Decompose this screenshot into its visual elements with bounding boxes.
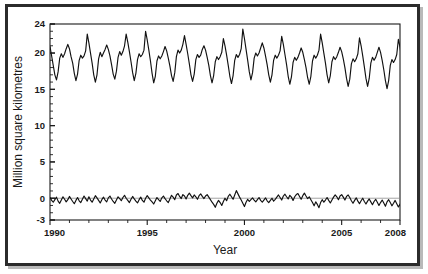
x-axis-tick-labels: 19901995200020052008 [44,227,406,238]
y-tick-label: -3 [37,214,45,225]
y-tick-label: 10 [34,120,45,131]
y-tick-label: 5 [40,156,46,167]
y-tick-label: 0 [40,193,45,204]
x-tick-label: 2005 [331,227,353,238]
x-tick-label: 2008 [385,227,406,238]
series-line-anomaly [50,191,418,211]
data-series-group [50,29,418,211]
y-tick-label: 15 [34,84,45,95]
figure-container: -30510152024 19901995200020052008 Year M… [0,0,428,274]
x-tick-label: 1995 [137,227,159,238]
y-axis-title: Million square kilometres [11,56,25,188]
plot-frame [50,24,400,220]
x-tick-label: 2000 [234,227,255,238]
x-axis-title: Year [213,243,237,257]
x-tick-label: 1990 [44,227,65,238]
series-line-extent [50,29,402,89]
x-axis-ticks [50,220,400,225]
line-chart: -30510152024 19901995200020052008 Year M… [0,0,428,274]
chart-canvas: -30510152024 19901995200020052008 Year M… [0,0,428,274]
y-tick-label: 20 [34,47,45,58]
y-axis-tick-labels: -30510152024 [34,18,45,225]
y-tick-label: 24 [34,18,45,29]
